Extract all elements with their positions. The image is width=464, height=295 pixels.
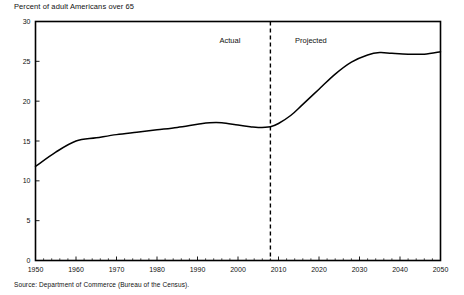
annotation-actual: Actual [219, 36, 240, 45]
x-tick-label: 2050 [433, 266, 449, 273]
x-tick-label: 2020 [311, 266, 327, 273]
line-chart-plot: 051015202530 195019601970198019902000201… [0, 0, 464, 295]
x-tick-label: 2010 [271, 266, 287, 273]
x-tick-label: 1980 [149, 266, 165, 273]
chart-source-note: Source: Department of Commerce (Bureau o… [14, 281, 189, 288]
y-tick-label: 10 [23, 177, 31, 184]
x-tick-label: 2030 [352, 266, 368, 273]
y-tick-label: 5 [27, 217, 31, 224]
annotation-projected: Projected [295, 36, 327, 45]
x-tick-label: 2040 [392, 266, 408, 273]
chart-annotations: ActualProjected [219, 36, 326, 45]
x-tick-label: 1990 [190, 266, 206, 273]
x-tick-label: 2000 [230, 266, 246, 273]
y-axis-labels: 051015202530 [23, 18, 31, 264]
y-tick-label: 20 [23, 98, 31, 105]
y-tick-label: 25 [23, 58, 31, 65]
series-line-percent-over-65 [36, 52, 441, 167]
x-tick-label: 1960 [68, 266, 84, 273]
x-tick-label: 1950 [28, 266, 44, 273]
plot-frame [36, 22, 441, 261]
x-tick-label: 1970 [109, 266, 125, 273]
chart-title: Percent of adult Americans over 65 [14, 2, 134, 11]
chart-figure: Percent of adult Americans over 65 05101… [0, 0, 464, 295]
x-axis-labels: 1950196019701980199020002010202020302040… [28, 266, 449, 273]
y-tick-label: 15 [23, 138, 31, 145]
y-tick-label: 0 [27, 257, 31, 264]
y-tick-label: 30 [23, 18, 31, 25]
